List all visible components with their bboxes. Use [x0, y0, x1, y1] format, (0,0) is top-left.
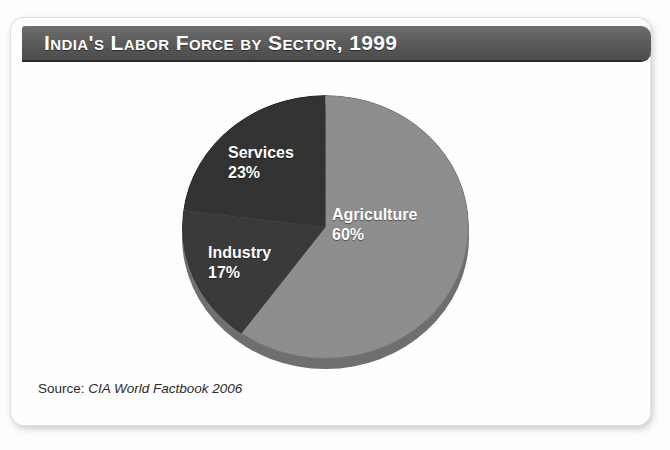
source-label: Source: [38, 381, 85, 396]
source-value: CIA World Factbook 2006 [88, 381, 242, 396]
pie-label-industry-name: Industry [208, 244, 271, 261]
figure-title: India's Labor Force by Sector, 1999 [44, 31, 397, 55]
pie-label-services-value: 23% [228, 163, 294, 183]
pie-chart: Services 23% Industry 17% Agriculture 60… [182, 95, 469, 367]
pie-label-industry-value: 17% [208, 263, 271, 283]
figure-title-banner: India's Labor Force by Sector, 1999 [22, 26, 651, 60]
pie-label-industry: Industry 17% [208, 243, 271, 284]
source-note: Source: CIA World Factbook 2006 [38, 381, 242, 396]
pie-label-services: Services 23% [228, 143, 294, 184]
pie-label-services-name: Services [228, 144, 294, 161]
scanned-page-background: India's Labor Force by Sector, 1999 Ser [0, 0, 670, 450]
pie-face [182, 95, 469, 359]
pie-slices-svg [182, 95, 469, 359]
figure-card: India's Labor Force by Sector, 1999 Ser [10, 17, 651, 426]
pie-label-agriculture-value: 60% [332, 225, 417, 245]
pie-label-agriculture-name: Agriculture [332, 206, 417, 223]
pie-label-agriculture: Agriculture 60% [332, 205, 417, 246]
